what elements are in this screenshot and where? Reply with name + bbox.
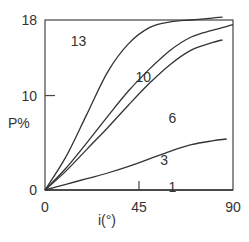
y-tick-label: 0 [29, 182, 37, 198]
y-tick-label: 18 [21, 12, 37, 28]
axis-ticks: 0101804590 [21, 12, 241, 215]
x-tick-label: 0 [41, 199, 49, 215]
x-tick-label: 90 [225, 199, 241, 215]
curve-label-1: 1 [169, 179, 177, 195]
x-axis-label: i(°) [98, 212, 116, 228]
curve-label-13: 13 [71, 33, 87, 49]
curve-label-6: 6 [169, 110, 177, 126]
y-tick-label: 10 [21, 88, 37, 104]
x-tick-label: 45 [131, 199, 147, 215]
y-axis-label: P% [8, 115, 30, 131]
curve-label-10: 10 [135, 69, 151, 85]
curve-label-3: 3 [160, 152, 168, 168]
curve-6 [45, 40, 223, 190]
curve-10 [45, 25, 233, 190]
chart-container: 0101804590 1310631 P% i(°) [0, 0, 249, 242]
line-chart: 0101804590 1310631 P% i(°) [0, 0, 249, 242]
